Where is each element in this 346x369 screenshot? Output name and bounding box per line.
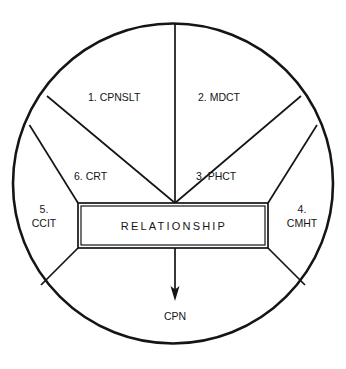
- sector-label-3-phct: 3. PHCT: [196, 170, 237, 182]
- spoke-divider-lower-right: [268, 248, 305, 285]
- sector-label-5-ccit-code: CCIT: [32, 217, 57, 229]
- spoke-divider-lower-left: [41, 248, 78, 285]
- sector-label-4-cmht-number: 4.: [298, 203, 307, 215]
- sector-label-1-cpnslt: 1. CPNSLT: [88, 91, 141, 103]
- spoke-divider-upper-right: [175, 96, 301, 203]
- sector-label-5-ccit-number: 5.: [40, 203, 49, 215]
- relationship-circle-diagram: 1. CPNSLT 2. MDCT 3. PHCT 4. CMHT 5. CCI…: [0, 0, 346, 369]
- spoke-divider-left: [30, 125, 79, 203]
- diagram-canvas: 1. CPNSLT 2. MDCT 3. PHCT 4. CMHT 5. CCI…: [0, 0, 346, 369]
- output-label-cpn: CPN: [164, 310, 186, 322]
- center-box-label: RELATIONSHIP: [121, 220, 227, 232]
- spoke-divider-right: [268, 125, 317, 203]
- outer-circle-icon: [13, 24, 333, 344]
- sector-label-4-cmht-code: CMHT: [287, 217, 318, 229]
- spoke-divider-upper-left: [47, 96, 175, 203]
- sector-label-2-mdct: 2. MDCT: [198, 91, 241, 103]
- sector-label-6-crt: 6. CRT: [74, 170, 108, 182]
